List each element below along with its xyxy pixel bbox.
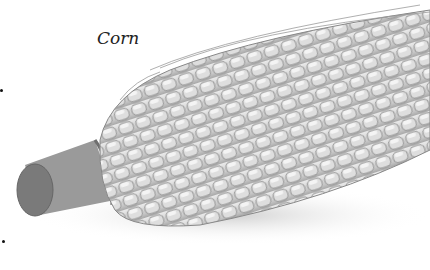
cob — [100, 10, 430, 226]
margin-dot — [2, 240, 5, 243]
corn-illustration — [0, 0, 430, 270]
margin-dot — [0, 89, 3, 92]
figure-label: Corn — [97, 28, 139, 48]
